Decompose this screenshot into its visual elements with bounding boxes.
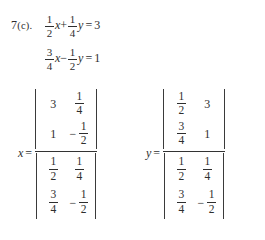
determinant-cell-r2c2: − 1 2 [66, 186, 92, 219]
denominator: 4 [75, 105, 83, 117]
equation-1-equals-sign: = [85, 18, 92, 32]
denominator: 4 [177, 204, 185, 216]
solution-x-equals-sign: = [23, 146, 32, 160]
determinant-cell-r1c1: 3 [40, 89, 66, 119]
numerator: 1 [46, 14, 54, 25]
denominator: 2 [177, 105, 185, 117]
determinant-bar-right [223, 153, 224, 219]
numerator: 3 [46, 47, 54, 58]
numerator: 3 [177, 189, 185, 201]
cell-fraction: 1 2 [79, 189, 88, 215]
determinant-cell-r2c1: 3 4 [40, 186, 66, 219]
equation-1-term-1-coefficient: 1 2 [45, 14, 54, 39]
problem-label: 7(c). [11, 18, 32, 33]
numerator: 1 [203, 156, 211, 168]
numerator: 1 [80, 121, 88, 133]
cell-fraction: 1 4 [75, 156, 84, 182]
denominator: 4 [75, 171, 83, 183]
solution-y-equals-sign: = [151, 146, 160, 160]
solution-y-label: y= [146, 146, 163, 162]
cell-fraction: 1 2 [49, 156, 58, 182]
determinant-cell-r2c2: − 1 2 [194, 186, 220, 219]
solution-y-denominator-determinant: 1 2 1 4 3 [163, 152, 225, 220]
textbook-page: 7(c). 1 2 x+ 1 4 y=3 3 4 x− 1 2 y=1 x= [0, 0, 265, 240]
determinant-cell-r2c1: 3 4 [168, 119, 194, 149]
numerator: 1 [75, 91, 83, 103]
determinant-cell-r1c1: 1 2 [40, 153, 66, 186]
equation-2: 3 4 x− 1 2 y=1 [44, 47, 100, 72]
minus-sign: − [69, 197, 76, 209]
determinant-bar-right [96, 89, 97, 149]
determinant-cell-r1c2: 1 4 [66, 153, 92, 186]
equation-1-term-2-variable: y [78, 18, 83, 32]
numerator: 1 [75, 156, 83, 168]
numerator: 1 [208, 189, 216, 201]
determinant-cells: 1 2 3 3 4 [164, 89, 224, 149]
determinant-cell-r1c2: 1 4 [66, 89, 92, 119]
solution-x: x= 3 1 4 [18, 88, 97, 220]
numerator: 1 [69, 47, 77, 58]
numerator: 1 [49, 156, 57, 168]
equation-1-term-2-coefficient: 1 4 [68, 14, 77, 39]
determinant-cell-r1c2: 1 4 [194, 153, 220, 186]
determinant-cells: 3 1 4 1 − 1 [36, 89, 96, 149]
equation-2-constant: 1 [94, 51, 100, 65]
numerator: 1 [69, 14, 77, 25]
numerator: 3 [177, 121, 185, 133]
cell-fraction: 3 4 [177, 121, 186, 147]
determinant-cell-r2c1: 1 [40, 119, 66, 149]
numerator: 3 [49, 189, 57, 201]
denominator: 2 [49, 171, 57, 183]
determinant-bar-right [95, 153, 96, 219]
determinant-cell-r1c1: 1 2 [168, 153, 194, 186]
denominator: 4 [203, 171, 211, 183]
cell-value: 3 [50, 98, 56, 110]
determinant-cells: 1 2 1 4 3 [165, 153, 223, 219]
equation-2-term-2-variable: y [78, 51, 83, 65]
cell-value: 1 [50, 128, 56, 140]
cell-fraction: 3 4 [177, 189, 186, 215]
denominator: 2 [80, 135, 88, 147]
equation-1-operator: + [60, 18, 67, 32]
determinant-cell-r1c1: 1 2 [168, 89, 194, 119]
cell-fraction: 1 2 [79, 121, 88, 147]
determinant-bar-right [224, 89, 225, 149]
equation-2-equals-sign: = [85, 51, 92, 65]
cell-fraction: 1 2 [177, 91, 186, 117]
denominator: 4 [69, 28, 77, 39]
determinant-cell-r2c2: 1 [194, 119, 220, 149]
numerator: 1 [177, 91, 185, 103]
denominator: 4 [177, 135, 185, 147]
denominator: 2 [46, 28, 54, 39]
cell-fraction: 1 4 [75, 91, 84, 117]
solution-x-numerator-determinant: 3 1 4 1 − 1 [35, 88, 97, 150]
denominator: 2 [208, 204, 216, 216]
determinant-cells: 1 2 1 4 3 [37, 153, 95, 219]
determinant-cell-r1c2: 3 [194, 89, 220, 119]
solution-x-label: x= [18, 146, 35, 162]
equation-1-constant: 3 [94, 18, 100, 32]
numerator: 1 [80, 189, 88, 201]
solution-x-denominator-determinant: 1 2 1 4 3 [35, 152, 97, 220]
numerator: 1 [177, 156, 185, 168]
solution-x-fraction: 3 1 4 1 − 1 [35, 88, 97, 220]
determinant-cell-r2c1: 3 4 [168, 186, 194, 219]
denominator: 4 [49, 204, 57, 216]
cell-fraction: 1 2 [177, 156, 186, 182]
solution-y: y= 1 2 3 [146, 88, 225, 220]
denominator: 2 [177, 171, 185, 183]
cell-value: 3 [204, 98, 210, 110]
cell-fraction: 3 4 [49, 189, 58, 215]
equation-2-term-1-coefficient: 3 4 [45, 47, 54, 72]
cell-value: 1 [204, 128, 210, 140]
solution-y-fraction: 1 2 3 3 4 [163, 88, 225, 220]
denominator: 2 [80, 204, 88, 216]
equation-1: 1 2 x+ 1 4 y=3 [44, 14, 100, 39]
cell-fraction: 1 2 [207, 189, 216, 215]
denominator: 4 [46, 61, 54, 72]
solution-y-numerator-determinant: 1 2 3 3 4 [163, 88, 225, 150]
minus-sign: − [197, 197, 204, 209]
cell-fraction: 1 4 [203, 156, 212, 182]
equation-2-term-2-coefficient: 1 2 [68, 47, 77, 72]
minus-sign: − [69, 128, 76, 140]
